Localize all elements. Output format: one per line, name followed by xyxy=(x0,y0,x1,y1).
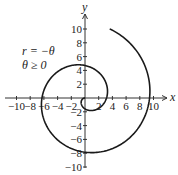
x-axis-label: x xyxy=(169,90,176,104)
y-tick-label: −10 xyxy=(65,161,83,173)
x-tick-label: 6 xyxy=(123,100,129,112)
y-tick-label: −4 xyxy=(70,120,82,132)
polar-plot: xy−10−8−6−4−2246810108642−2−4−6−8−10 xyxy=(0,0,178,175)
x-tick-label: 4 xyxy=(110,100,116,112)
y-tick-label: 6 xyxy=(77,51,83,63)
x-tick-label: −10 xyxy=(8,100,26,112)
equation-line-2: θ ≥ 0 xyxy=(22,58,55,72)
y-tick-label: 4 xyxy=(77,64,83,76)
y-tick-label: −6 xyxy=(70,133,82,145)
y-axis-label: y xyxy=(81,0,88,14)
y-tick-label: 8 xyxy=(77,37,83,49)
equation-line-1: r = −θ xyxy=(22,44,55,58)
x-tick-label: −8 xyxy=(24,100,36,112)
x-tick-label: 8 xyxy=(137,100,143,112)
x-tick-label: −4 xyxy=(52,100,64,112)
y-tick-label: −2 xyxy=(70,106,82,118)
x-tick-label: −6 xyxy=(38,100,50,112)
y-tick-label: 10 xyxy=(71,23,83,35)
equation-label: r = −θ θ ≥ 0 xyxy=(22,44,55,72)
y-tick-label: 2 xyxy=(77,78,83,90)
spiral-curve xyxy=(41,29,149,153)
